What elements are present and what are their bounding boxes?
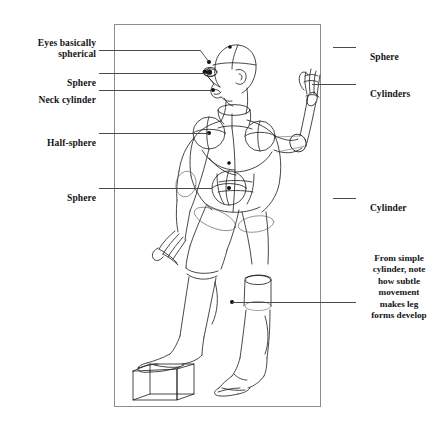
label-sphere-pelvis-text: Sphere	[67, 193, 96, 203]
label-sphere-skull-text: Sphere	[370, 52, 399, 62]
note-leg-forms: From simple cylinder, note how subtle mo…	[356, 253, 442, 321]
label-cylinders-arm: Cylinders	[360, 77, 410, 112]
note-leg-forms-text: From simple cylinder, note how subtle mo…	[371, 253, 426, 320]
label-neck-cylinder-text: Neck cylinder	[39, 95, 97, 105]
leader-line-half-sphere	[99, 133, 209, 134]
label-half-sphere-text: Half-sphere	[47, 138, 96, 148]
label-sphere-skull: Sphere	[360, 40, 399, 75]
leader-line-note	[232, 302, 356, 303]
leader-line-eyes	[99, 50, 200, 51]
label-eyes-spherical-text: Eyes basically spherical	[38, 38, 96, 60]
leader-line-neck	[99, 90, 212, 91]
label-cylinder-leg: Cylinder	[360, 191, 407, 226]
label-cylinder-leg-text: Cylinder	[370, 203, 407, 213]
label-neck-cylinder: Neck cylinder	[10, 83, 96, 118]
label-half-sphere: Half-sphere	[16, 126, 96, 161]
leader-line-cylinder-leg	[333, 198, 356, 199]
leader-line-cylinders-arm	[312, 84, 356, 85]
label-cylinders-arm-text: Cylinders	[370, 89, 411, 99]
figure-drawing	[114, 24, 321, 407]
leader-line-sphere-head	[99, 73, 206, 74]
label-sphere-pelvis: Sphere	[16, 181, 96, 216]
leader-line-sphere-pelvis	[99, 188, 212, 189]
diagram-canvas: Eyes basically spherical Sphere Neck cyl…	[0, 0, 448, 424]
leader-line-sphere-skull	[333, 47, 356, 48]
